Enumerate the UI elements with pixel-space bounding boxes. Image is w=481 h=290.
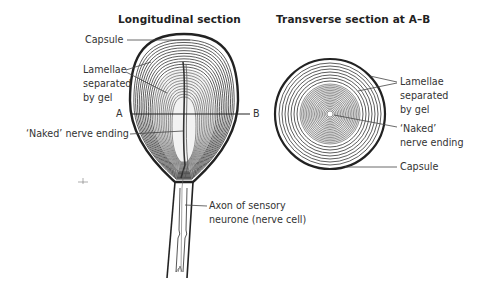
transverse-lamellae-label-line2: separated	[400, 89, 448, 103]
point-b-label: B	[253, 107, 260, 121]
axon-left	[176, 188, 180, 272]
axon-leader-line	[185, 205, 207, 206]
transverse-nerve-ending	[327, 111, 333, 117]
stalk-wall-left	[167, 182, 175, 278]
point-a-label: A	[116, 107, 123, 121]
stalk-wall-right	[187, 182, 193, 278]
transverse-capsule-label: Capsule	[400, 160, 438, 174]
transverse-naked-label-line2: nerve ending	[400, 136, 463, 150]
capsule-label: Capsule	[85, 33, 123, 47]
transverse-naked-label-line1: ‘Naked’	[400, 122, 436, 136]
lamellae-label-line2: separated	[83, 77, 131, 91]
lamellae-label-line1: Lamellae	[83, 63, 127, 77]
naked-nerve-ending-label: ‘Naked’ nerve ending	[26, 127, 129, 141]
transverse-section-drawing	[275, 59, 385, 169]
axon-label-line1: Axon of sensory	[209, 199, 286, 213]
axon-label-line2: neurone (nerve cell)	[209, 213, 306, 227]
axon-right	[183, 188, 187, 272]
transverse-lamellae-label-line3: by gel	[400, 103, 429, 117]
stray-mark	[78, 178, 88, 184]
transverse-lamellae-label-line1: Lamellae	[400, 75, 444, 89]
longitudinal-section-drawing	[130, 34, 238, 278]
lamellae-label-line3: by gel	[83, 91, 112, 105]
